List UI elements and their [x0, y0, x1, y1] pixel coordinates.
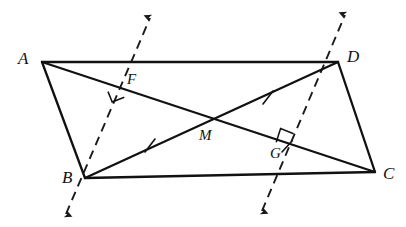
point-label-F: F — [127, 72, 136, 87]
vertex-label-C: C — [383, 165, 394, 182]
side-AB — [42, 62, 85, 178]
side-DC — [338, 62, 375, 172]
vertex-label-D: D — [347, 48, 359, 65]
point-label-G: G — [270, 146, 281, 161]
geometry-figure: A B C D M F G — [0, 0, 406, 227]
side-BC — [85, 172, 375, 178]
figure-canvas — [0, 0, 406, 227]
dashed-line-through-D — [262, 15, 345, 211]
point-label-M: M — [199, 128, 212, 143]
dashed-line-through-B — [66, 18, 150, 214]
diagonals-group — [42, 62, 375, 178]
dashed-lines-group — [66, 15, 345, 214]
vertex-label-B: B — [62, 169, 72, 186]
vertex-label-A: A — [18, 50, 28, 67]
